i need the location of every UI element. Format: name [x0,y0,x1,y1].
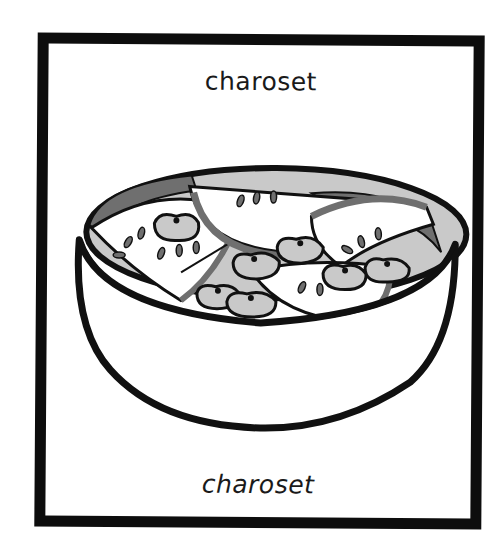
card-title-bottom: charoset [45,469,470,501]
flashcard: charoset [34,32,484,529]
bowl-of-charoset-icon [45,44,473,519]
